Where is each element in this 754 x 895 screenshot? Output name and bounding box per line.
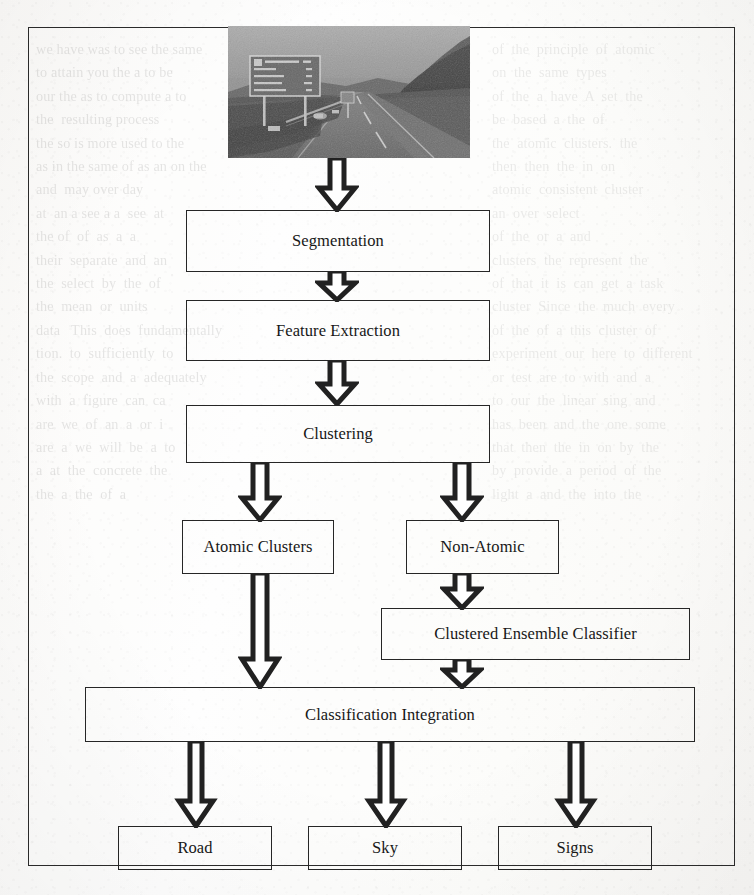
node-road: Road xyxy=(118,826,272,870)
node-clustering: Clustering xyxy=(186,405,490,463)
node-non-atomic-label: Non-Atomic xyxy=(440,537,524,557)
node-clustering-label: Clustering xyxy=(303,424,373,444)
node-segmentation-label: Segmentation xyxy=(292,231,384,251)
node-atomic-clusters-label: Atomic Clusters xyxy=(203,537,312,557)
node-clustered-ensemble-classifier-label: Clustered Ensemble Classifier xyxy=(434,624,637,644)
node-classification-integration-label: Classification Integration xyxy=(305,704,475,724)
node-segmentation: Segmentation xyxy=(186,210,490,272)
node-feature-extraction: Feature Extraction xyxy=(186,300,490,361)
node-feature-extraction-label: Feature Extraction xyxy=(276,320,400,340)
node-signs: Signs xyxy=(498,826,652,870)
node-clustered-ensemble-classifier: Clustered Ensemble Classifier xyxy=(381,608,690,660)
node-signs-label: Signs xyxy=(556,838,593,858)
scanned-page: we have was to see the same to attain yo… xyxy=(0,0,754,895)
node-atomic-clusters: Atomic Clusters xyxy=(182,520,334,574)
node-road-label: Road xyxy=(177,838,212,858)
node-sky-label: Sky xyxy=(372,838,398,858)
node-non-atomic: Non-Atomic xyxy=(406,520,559,574)
road-scene-photo xyxy=(228,26,470,158)
node-classification-integration: Classification Integration xyxy=(85,687,695,742)
node-sky: Sky xyxy=(308,826,462,870)
